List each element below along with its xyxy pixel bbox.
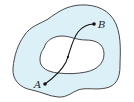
inner-hole bbox=[40, 36, 104, 74]
region-diagram: A B bbox=[0, 0, 134, 102]
point-a-label: A bbox=[33, 79, 41, 90]
midpoint-marker bbox=[67, 56, 69, 58]
point-b-dot bbox=[92, 22, 96, 26]
point-a-dot bbox=[43, 82, 47, 86]
point-b-label: B bbox=[97, 19, 105, 30]
